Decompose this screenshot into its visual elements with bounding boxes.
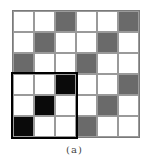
grid-cell: [118, 116, 139, 137]
grid-cell: [76, 74, 97, 95]
grid-cell: [34, 11, 55, 32]
grid-cell: [97, 53, 118, 74]
grid-cell: [34, 53, 55, 74]
grid-cell: [13, 95, 34, 116]
grid-cell: [118, 11, 139, 32]
grid-cell: [97, 116, 118, 137]
grid-cell: [76, 32, 97, 53]
grid-cell: [55, 95, 76, 116]
grid-cell: [76, 95, 97, 116]
grid-cell: [118, 74, 139, 95]
grid-cell: [13, 53, 34, 74]
grid-cell: [76, 116, 97, 137]
grid-cell: [97, 11, 118, 32]
grid-cell: [76, 11, 97, 32]
grid-cell: [97, 95, 118, 116]
figure-caption: (a): [0, 144, 149, 155]
grid-cell: [13, 116, 34, 137]
grid-cell: [34, 32, 55, 53]
grid-cell: [13, 32, 34, 53]
grid-cell: [97, 74, 118, 95]
grid-cell: [118, 53, 139, 74]
grid-cell: [55, 32, 76, 53]
grid-cell: [55, 116, 76, 137]
grid-cell: [13, 11, 34, 32]
grid-cell: [34, 116, 55, 137]
grid-cell: [118, 95, 139, 116]
grid-cell: [118, 32, 139, 53]
grid-cell: [34, 95, 55, 116]
grid-cell: [34, 74, 55, 95]
grid-cell: [55, 53, 76, 74]
grid-cell: [97, 32, 118, 53]
grid-cell: [76, 53, 97, 74]
grid-cell: [55, 11, 76, 32]
grid-cell: [55, 74, 76, 95]
grid-cell: [13, 74, 34, 95]
pattern-grid: [12, 10, 140, 138]
